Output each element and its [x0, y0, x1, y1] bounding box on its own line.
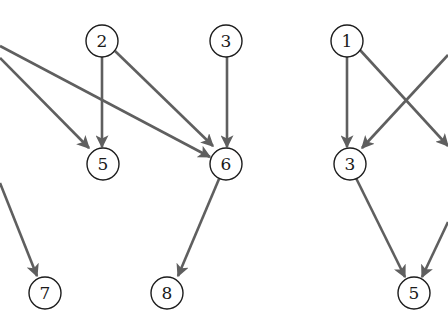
edge-6-to-8	[178, 179, 219, 276]
edge-offscreen-to-6	[0, 46, 210, 157]
node-label: 5	[98, 154, 109, 174]
edge-offscreen-to-7	[0, 183, 37, 276]
dependency-graph-diagram: 2 3 5 6 7 8 1 3	[0, 0, 448, 324]
node-label: 3	[345, 154, 356, 174]
node-label: 5	[409, 283, 420, 303]
node-6: 6	[210, 148, 242, 180]
left-graph-nodes: 2 3 5 6 7 8	[29, 25, 242, 309]
node-label: 3	[221, 31, 232, 51]
node-5-right: 5	[398, 277, 430, 309]
edge-1-to-offscreen	[360, 50, 448, 146]
node-3-right: 3	[334, 148, 366, 180]
node-label: 2	[97, 31, 108, 51]
node-label: 6	[221, 154, 232, 174]
edge-offscreen-to-5	[422, 222, 448, 277]
node-label: 7	[40, 283, 51, 303]
edge-offscreen-to-5	[0, 58, 89, 148]
node-label: 1	[342, 31, 353, 51]
node-5: 5	[87, 148, 119, 180]
edge-offscreen-to-3	[362, 55, 448, 148]
node-7: 7	[29, 277, 61, 309]
edge-3-to-5	[356, 178, 405, 277]
node-3: 3	[210, 25, 242, 57]
node-8: 8	[151, 277, 183, 309]
node-2: 2	[86, 25, 118, 57]
node-label: 8	[162, 283, 173, 303]
node-1: 1	[331, 25, 363, 57]
